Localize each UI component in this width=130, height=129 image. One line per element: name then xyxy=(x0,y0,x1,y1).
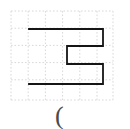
canvas-background xyxy=(0,0,130,129)
figure-drawing xyxy=(0,0,130,129)
figure-canvas: ( xyxy=(0,0,130,129)
